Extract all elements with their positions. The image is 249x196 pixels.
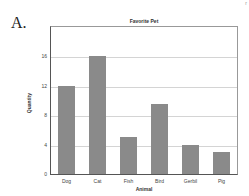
y-tick-label: 0 xyxy=(44,171,47,177)
y-tick-label: 12 xyxy=(41,83,47,89)
corner-mark: r xyxy=(245,0,247,6)
x-axis-label: Animal xyxy=(50,186,238,192)
gridline xyxy=(51,57,237,58)
y-tick-label: 8 xyxy=(44,112,47,118)
y-tick-label: 4 xyxy=(44,142,47,148)
bar-pig xyxy=(213,152,230,174)
gridline xyxy=(51,146,237,147)
x-tick-label: Cat xyxy=(94,178,102,184)
gridline xyxy=(51,116,237,117)
bar-dog xyxy=(58,86,75,174)
plot-area xyxy=(50,26,238,175)
chart-title: Favorite Pet xyxy=(50,18,238,24)
panel-label: A. xyxy=(11,14,27,32)
x-tick-label: Bird xyxy=(155,178,164,184)
x-tick-label: Dog xyxy=(62,178,71,184)
y-axis-label: Quantity xyxy=(26,93,32,113)
bar-gerbil xyxy=(182,145,199,174)
x-tick-label: Gerbil xyxy=(184,178,197,184)
gridline xyxy=(51,87,237,88)
x-tick-label: Fish xyxy=(124,178,133,184)
x-tick-label: Pig xyxy=(218,178,225,184)
bar-fish xyxy=(120,137,137,174)
bar-bird xyxy=(151,104,168,174)
y-tick-label: 16 xyxy=(41,53,47,59)
bar-cat xyxy=(89,56,106,174)
